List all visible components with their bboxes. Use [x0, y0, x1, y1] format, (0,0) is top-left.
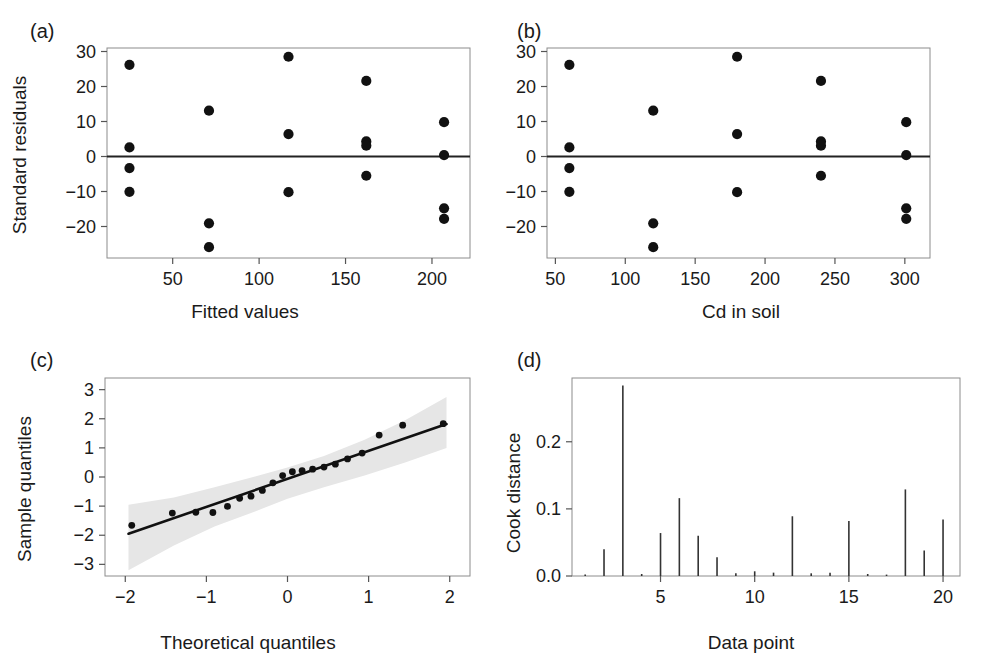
data-point: [648, 218, 658, 228]
x-tick-label: 250: [820, 269, 850, 289]
x-tick-label: 300: [890, 269, 920, 289]
panel-d-xlabel: Data point: [708, 632, 795, 653]
y-tick-label: 10: [76, 112, 96, 132]
data-point: [439, 214, 449, 224]
y-tick-label: −3: [73, 554, 94, 574]
y-tick-label: 0: [526, 147, 536, 167]
data-point: [224, 503, 231, 510]
panel-d-ylabel: Cook distance: [503, 433, 524, 553]
x-tick-label: 50: [545, 269, 565, 289]
data-point: [309, 466, 316, 473]
x-tick-label: −2: [115, 587, 136, 607]
x-tick-label: 50: [163, 269, 183, 289]
x-tick-label: 150: [680, 269, 710, 289]
x-tick-label: 0: [282, 587, 292, 607]
x-tick-label: 10: [745, 587, 765, 607]
x-tick-label: −1: [196, 587, 217, 607]
data-point: [124, 142, 134, 152]
y-tick-label: 0.0: [536, 566, 561, 586]
data-point: [732, 187, 742, 197]
y-tick-label: 1: [84, 438, 94, 458]
data-point: [344, 456, 351, 463]
data-point: [248, 493, 255, 500]
data-point: [270, 479, 277, 486]
data-point: [816, 76, 826, 86]
data-point: [279, 472, 286, 479]
data-point: [440, 420, 447, 427]
x-tick-label: 5: [656, 587, 666, 607]
y-tick-label: −1: [73, 496, 94, 516]
y-tick-label: 3: [84, 380, 94, 400]
panel-c-ylabel: Sample quantiles: [14, 416, 35, 562]
x-tick-label: 150: [331, 269, 361, 289]
data-point: [359, 450, 366, 457]
plot-frame: [572, 378, 960, 576]
data-point: [648, 106, 658, 116]
y-tick-label: −20: [65, 217, 96, 237]
panel-b-svg: (b) Cd in soil 50100150200250300−20−1001…: [493, 0, 986, 331]
y-tick-label: 0: [84, 467, 94, 487]
plot-frame: [547, 48, 930, 258]
y-tick-label: 30: [76, 42, 96, 62]
panel-a-letter: (a): [30, 20, 54, 42]
panel-b-residuals-vs-cd: (b) Cd in soil 50100150200250300−20−1001…: [493, 0, 986, 331]
panel-b-plot-area: 50100150200250300−20−100102030: [505, 42, 930, 290]
panel-a-residuals-vs-fitted: (a) Fitted values Standard residuals 501…: [0, 0, 493, 331]
data-point: [236, 495, 243, 502]
data-point: [399, 422, 406, 429]
data-point: [321, 464, 328, 471]
y-tick-label: 20: [76, 77, 96, 97]
data-point: [361, 76, 371, 86]
y-tick-label: −2: [73, 525, 94, 545]
y-tick-label: 10: [516, 112, 536, 132]
data-point: [283, 187, 293, 197]
data-point: [901, 203, 911, 213]
plot-frame: [107, 48, 470, 258]
diagnostic-plots-figure: (a) Fitted values Standard residuals 501…: [0, 0, 986, 662]
data-point: [192, 509, 199, 516]
data-point: [361, 171, 371, 181]
data-point: [376, 432, 383, 439]
y-tick-label: −10: [65, 182, 96, 202]
data-point: [259, 487, 266, 494]
data-point: [439, 117, 449, 127]
y-tick-label: 20: [516, 77, 536, 97]
data-point: [299, 467, 306, 474]
data-point: [204, 218, 214, 228]
data-point: [564, 187, 574, 197]
panel-c-xlabel: Theoretical quantiles: [160, 632, 335, 653]
y-tick-label: 0: [86, 147, 96, 167]
data-point: [901, 150, 911, 160]
panel-c-plot-area: −2−1012−3−2−10123: [73, 378, 470, 607]
data-point: [564, 163, 574, 173]
y-tick-label: 30: [516, 42, 536, 62]
panel-c-qq-plot: (c) Theoretical quantiles Sample quantil…: [0, 331, 493, 662]
data-point: [816, 171, 826, 181]
data-point: [169, 510, 176, 517]
x-tick-label: 100: [244, 269, 274, 289]
panel-b-letter: (b): [517, 20, 541, 42]
panel-a-svg: (a) Fitted values Standard residuals 501…: [0, 0, 493, 331]
y-tick-label: 0.1: [536, 499, 561, 519]
data-point: [732, 52, 742, 62]
panel-d-cook-distance: (d) Data point Cook distance 51015200.00…: [493, 331, 986, 662]
data-point: [209, 509, 216, 516]
data-point: [283, 129, 293, 139]
data-point: [439, 150, 449, 160]
data-point: [732, 129, 742, 139]
x-tick-label: 15: [839, 587, 859, 607]
x-tick-label: 100: [610, 269, 640, 289]
data-point: [361, 141, 371, 151]
x-tick-label: 200: [750, 269, 780, 289]
data-point: [204, 106, 214, 116]
data-point: [816, 141, 826, 151]
data-point: [283, 52, 293, 62]
data-point: [124, 60, 134, 70]
data-point: [564, 142, 574, 152]
x-tick-label: 20: [933, 587, 953, 607]
data-point: [901, 214, 911, 224]
confidence-band: [129, 397, 447, 570]
panel-a-plot-area: 50100150200−20−100102030: [65, 42, 470, 290]
panel-c-svg: (c) Theoretical quantiles Sample quantil…: [0, 331, 493, 662]
panel-a-ylabel: Standard residuals: [9, 76, 30, 234]
